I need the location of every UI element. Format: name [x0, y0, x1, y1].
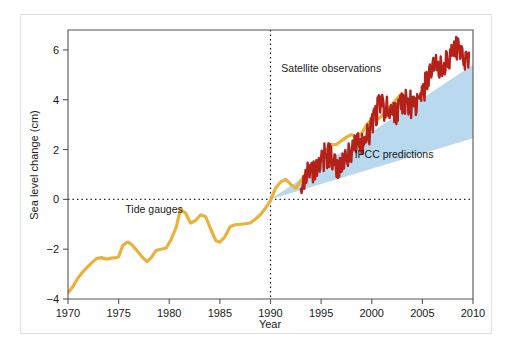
x-tick-label: 2000: [360, 307, 384, 319]
x-tick-label: 2005: [410, 307, 434, 319]
plot-area-background: [68, 30, 473, 299]
x-tick-label: 1980: [157, 307, 181, 319]
x-axis-title: Year: [259, 318, 282, 330]
satellite-observations-label: Satellite observations: [281, 62, 381, 74]
figure-root: −4−20246 1970197519801985199019952000200…: [0, 0, 513, 348]
x-tick-label: 2010: [461, 307, 485, 319]
x-axis-ticks: 197019751980198519901995200020052010: [56, 299, 485, 319]
y-axis-ticks: −4−20246: [46, 44, 68, 305]
ipcc-predictions-label: IPCC predictions: [355, 148, 434, 160]
y-tick-label: 0: [53, 193, 59, 205]
y-axis-title: Sea level change (cm): [28, 110, 40, 219]
x-tick-label: 1985: [208, 307, 232, 319]
sea-level-chart: −4−20246 1970197519801985199019952000200…: [0, 0, 513, 348]
y-tick-label: 6: [53, 44, 59, 56]
x-tick-label: 1975: [106, 307, 130, 319]
tide-gauges-label: Tide gauges: [125, 203, 182, 215]
y-tick-label: 4: [53, 94, 59, 106]
x-tick-label: 1995: [309, 307, 333, 319]
x-tick-label: 1970: [56, 307, 80, 319]
y-tick-label: 2: [53, 144, 59, 156]
y-tick-label: −2: [46, 243, 59, 255]
y-tick-label: −4: [46, 293, 59, 305]
